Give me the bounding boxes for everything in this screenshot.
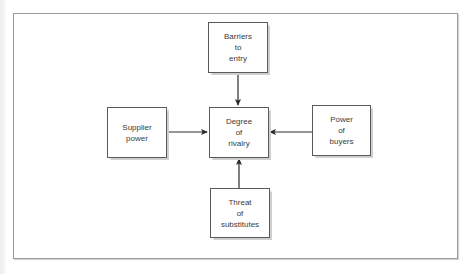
node-supplier-power: Supplier power xyxy=(107,107,167,158)
node-power-of-buyers: Power of buyers xyxy=(312,105,371,156)
node-label-line: rivalry xyxy=(226,138,252,149)
node-label-line: to xyxy=(224,42,252,53)
node-label-line: of xyxy=(329,125,353,136)
node-label-line: Threat xyxy=(221,197,259,208)
node-label-line: power xyxy=(122,133,151,144)
node-label-line: of xyxy=(226,127,252,138)
node-label-line: entry xyxy=(224,53,252,64)
node-threat-of-substitutes: Threat of substitutes xyxy=(210,188,270,238)
node-degree-of-rivalry: Degree of rivalry xyxy=(209,107,269,158)
node-label-line: buyers xyxy=(329,136,353,147)
node-label-line: Barriers xyxy=(224,31,252,42)
node-label-line: Supplier xyxy=(122,122,151,133)
node-label-line: substitutes xyxy=(221,219,259,230)
node-barriers-to-entry: Barriers to entry xyxy=(208,22,268,73)
node-label-line: Degree xyxy=(226,116,252,127)
node-label-line: Power xyxy=(329,114,353,125)
node-label-line: of xyxy=(221,208,259,219)
